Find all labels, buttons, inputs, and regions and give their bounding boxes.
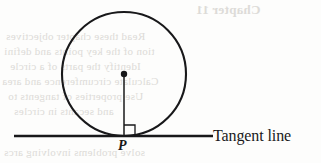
tangent-line-label: Tangent line <box>213 127 291 145</box>
figure-canvas: Chapter 11Read these chapter objectivest… <box>0 0 321 163</box>
center-point-dot-icon <box>121 71 127 77</box>
tangent-point-label: P <box>118 138 127 154</box>
